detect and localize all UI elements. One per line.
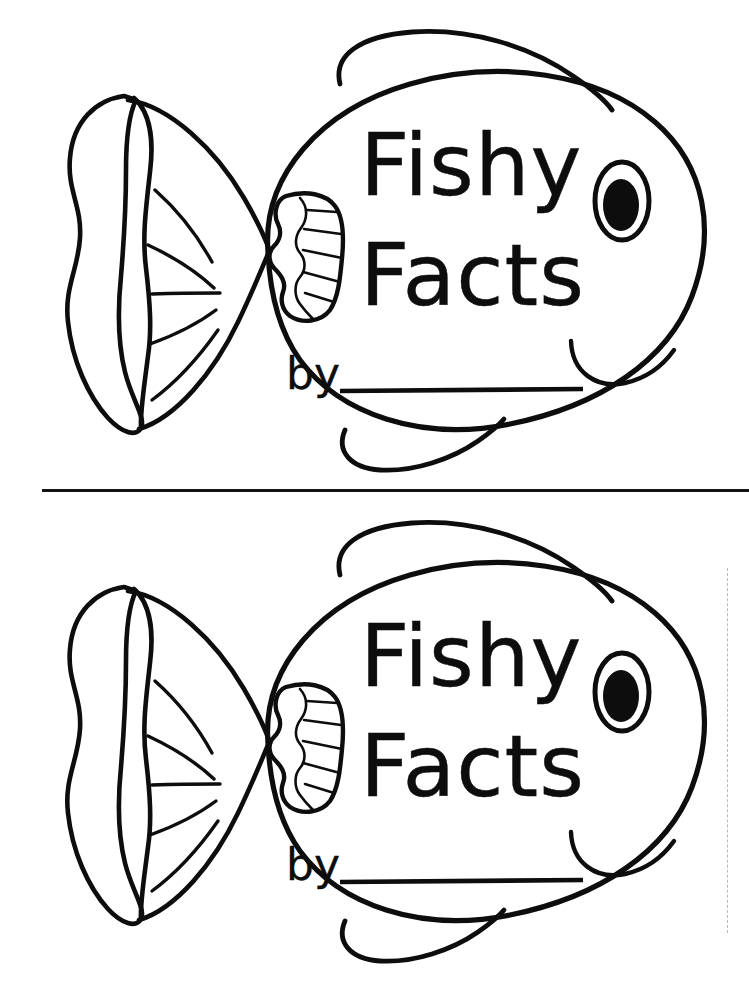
- pectoral-fin-inner-wave: [296, 689, 314, 810]
- cover-bottom: Fishy Facts by: [0, 491, 749, 981]
- dashed-trim-guide: [727, 568, 728, 933]
- cover-title-line-2: Facts: [360, 716, 585, 816]
- tail-fin: [67, 96, 142, 433]
- tail-fin: [67, 587, 142, 924]
- cover-title-line-1: Fishy: [360, 115, 582, 215]
- tail-inner-ridge: [134, 589, 151, 919]
- byline-label: by: [286, 839, 340, 890]
- cover-top: Fishy Facts by: [0, 0, 749, 490]
- worksheet-page: Fishy Facts by: [0, 0, 749, 981]
- byline-blank[interactable]: [340, 880, 583, 882]
- fish-drawing-bottom: Fishy Facts by: [0, 491, 749, 981]
- cover-title-line-1: Fishy: [360, 606, 582, 706]
- pectoral-fin-inner-wave: [296, 198, 314, 319]
- fish-pupil: [603, 179, 639, 231]
- tail-inner-ridge: [134, 98, 151, 428]
- cover-title-line-2: Facts: [360, 225, 585, 325]
- fish-pupil: [603, 670, 639, 722]
- byline-blank[interactable]: [340, 389, 583, 391]
- byline-label: by: [286, 348, 340, 399]
- fish-drawing-top: Fishy Facts by: [0, 0, 749, 490]
